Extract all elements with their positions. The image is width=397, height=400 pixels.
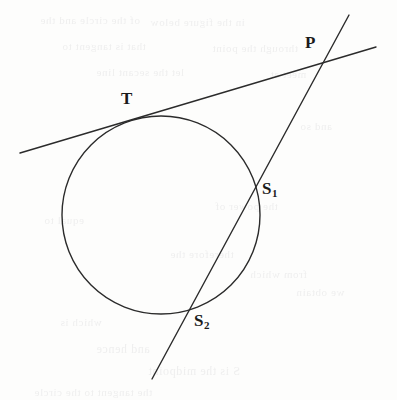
label-external-point-p: P [305, 34, 315, 51]
secant-line [152, 15, 349, 379]
geometry-diagram [0, 0, 397, 400]
label-p-text: P [305, 33, 315, 52]
label-s2-text: S [194, 311, 203, 330]
label-s1-subscript: 1 [272, 187, 278, 199]
label-secant-point-s1: S1 [262, 180, 277, 197]
label-s2-subscript: 2 [204, 319, 210, 331]
label-tangent-point-t: T [121, 90, 132, 107]
label-secant-point-s2: S2 [194, 312, 209, 329]
label-s1-text: S [262, 179, 271, 198]
geometry-figure-page: of the circle and thein the figure below… [0, 0, 397, 400]
label-t-text: T [121, 89, 132, 108]
circle [62, 116, 260, 314]
